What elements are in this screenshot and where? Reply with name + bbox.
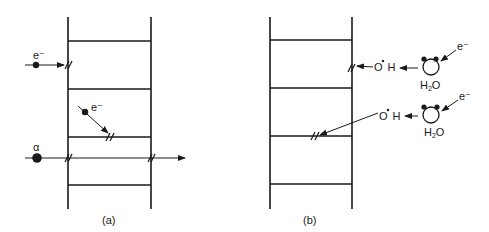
panel-a [68,17,151,209]
radical-dot [382,60,384,62]
electron-path-arrow [441,50,456,61]
electron-direct-hit: e⁻ [25,49,72,69]
hydroxyl-radical-label: OH [379,110,401,122]
electron-oblique-hit: e⁻ [78,101,114,141]
diagram-canvas: e⁻ e⁻ α (a) [0,0,489,232]
radiation-damage-diagram: e⁻ e⁻ α (a) [0,0,489,232]
radical-dot [387,109,389,111]
electron-label: e⁻ [457,40,469,52]
alpha-particle-track: α [25,141,185,163]
water-molecule-icon [421,56,439,75]
panel-b-caption: (b) [303,214,316,226]
electron-label: e⁻ [91,101,103,113]
electron-label: e⁻ [459,90,471,102]
hydroxyl-radical-label: OH [374,61,396,73]
alpha-label: α [33,141,40,153]
electron-label: e⁻ [33,49,45,61]
water-molecule-icon [421,104,439,123]
panel-b [270,17,352,209]
radical-path-arrow [320,113,378,135]
radical-attack-bottom: OH H2O e⁻ [311,90,471,140]
electron-path-arrow [442,100,458,111]
water-label: H2O [424,126,445,139]
radical-path-arrow [357,66,373,67]
panel-a-caption: (a) [102,214,115,226]
radical-attack-top: OH H2O e⁻ [348,40,469,92]
electron-dot [82,109,88,115]
water-label: H2O [420,79,441,92]
